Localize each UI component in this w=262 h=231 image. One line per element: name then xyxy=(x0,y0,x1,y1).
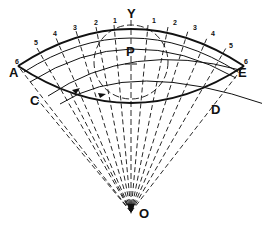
right-division-6: 6 xyxy=(244,58,248,65)
label-a: A xyxy=(9,66,18,79)
left-division-5: 5 xyxy=(34,39,38,46)
diagram-canvas: Y P A E C D O 1 2 3 4 5 6 1 2 3 4 5 6 xyxy=(0,0,262,231)
left-division-1: 1 xyxy=(113,17,117,24)
label-c: C xyxy=(30,94,39,107)
left-division-3: 3 xyxy=(73,24,77,31)
arrow-marker xyxy=(98,93,106,98)
label-e: E xyxy=(238,66,247,79)
left-division-2: 2 xyxy=(94,19,98,26)
right-division-1: 1 xyxy=(152,17,156,24)
label-d: D xyxy=(211,103,220,116)
construction-drawing xyxy=(0,0,262,231)
left-division-4: 4 xyxy=(53,30,57,37)
label-y: Y xyxy=(127,7,136,20)
right-division-4: 4 xyxy=(211,30,215,37)
label-o: O xyxy=(139,207,149,220)
right-division-2: 2 xyxy=(173,19,177,26)
label-p: P xyxy=(126,45,135,58)
right-division-3: 3 xyxy=(193,24,197,31)
right-division-5: 5 xyxy=(229,42,233,49)
left-division-6: 6 xyxy=(15,58,19,65)
